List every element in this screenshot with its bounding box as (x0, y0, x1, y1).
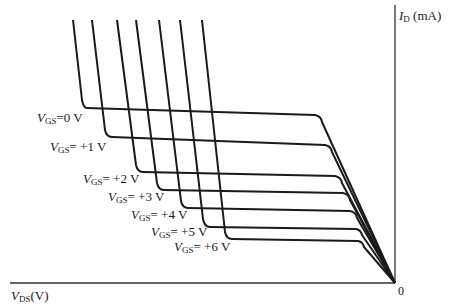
curve-label-vgs-0: VGS=0 V (37, 111, 83, 126)
curve-vgs-1 (92, 20, 395, 283)
x-axis-symbol: V (11, 288, 19, 303)
y-axis-label: ID (mA) (399, 9, 441, 24)
origin-label: 0 (398, 285, 404, 297)
curve-label-vgs-5: VGS= +5 V (151, 225, 207, 240)
x-axis-unit: (V) (30, 288, 48, 303)
curve-vgs-2 (117, 20, 395, 283)
curve-label-vgs-4: VGS= +4 V (131, 208, 187, 223)
x-axis-subscript: DS (19, 294, 31, 304)
curve-label-vgs-6: VGS= +6 V (174, 240, 230, 255)
x-axis-label: VDS(V) (11, 289, 49, 304)
y-axis-unit: (mA) (410, 8, 441, 23)
curve-group (73, 20, 395, 283)
curve-label-vgs-2: VGS= +2 V (83, 172, 139, 187)
curve-label-vgs-1: VGS= +1 V (50, 140, 106, 155)
curve-vgs-6 (202, 20, 395, 283)
curve-label-vgs-3: VGS= +3 V (108, 190, 164, 205)
